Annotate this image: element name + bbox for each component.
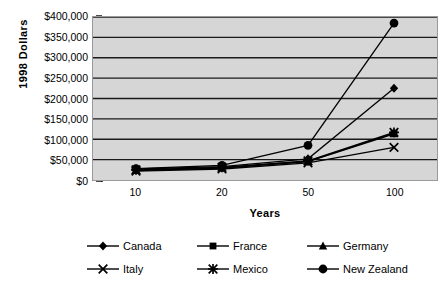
series-line [136, 132, 394, 169]
legend-label: Canada [123, 240, 162, 252]
data-point-circle [132, 164, 141, 173]
legend-label: Italy [123, 263, 143, 275]
y-tick-label: $100,000 [44, 135, 88, 145]
data-point-square [210, 242, 217, 249]
legend-item-new-zealand[interactable]: New Zealand [306, 262, 416, 276]
legend-item-italy[interactable]: Italy [86, 262, 196, 276]
plot-svg [93, 17, 437, 180]
legend-marker-circle-icon [306, 262, 340, 276]
legend-marker-star-icon [196, 262, 230, 276]
x-tick-label: 10 [129, 186, 141, 198]
x-axis-title: Years [92, 207, 438, 219]
legend-label: Germany [343, 240, 388, 252]
legend-item-canada[interactable]: Canada [86, 239, 196, 253]
series-line [136, 88, 394, 169]
data-point-diamond [99, 241, 107, 250]
y-tick-label: $0 [76, 176, 88, 186]
y-tick-label: $50,000 [50, 155, 88, 165]
y-tick-label: $350,000 [44, 32, 88, 42]
legend-marker-x-icon [86, 262, 120, 276]
chart-legend: CanadaFranceGermanyItalyMexicoNew Zealan… [86, 234, 416, 280]
x-tick-label: 50 [302, 186, 314, 198]
y-axis-tick-labels: $0$50,000$100,000$150,000$200,000$250,00… [24, 0, 88, 286]
legend-marker-square-icon [196, 239, 230, 253]
data-point-star [389, 127, 399, 137]
y-tick-label: $400,000 [44, 11, 88, 21]
plot-area [92, 16, 438, 181]
x-tick-label: 100 [386, 186, 404, 198]
y-tick-label: $250,000 [44, 73, 88, 83]
data-point-circle [319, 264, 328, 273]
series-new-zealand [132, 19, 399, 173]
legend-label: France [233, 240, 267, 252]
y-tick-label: $150,000 [44, 114, 88, 124]
legend-label: New Zealand [343, 263, 408, 275]
legend-item-germany[interactable]: Germany [306, 239, 416, 253]
legend-item-france[interactable]: France [196, 239, 306, 253]
legend-item-mexico[interactable]: Mexico [196, 262, 306, 276]
data-point-circle [218, 161, 227, 170]
chart-container: 1998 Dollars $0$50,000$100,000$150,000$2… [0, 0, 448, 286]
legend-marker-triangle-icon [306, 239, 340, 253]
x-axis-tick-labels: 102050100 [92, 186, 438, 202]
legend-label: Mexico [233, 263, 268, 275]
data-point-star [303, 156, 313, 166]
legend-marker-diamond-icon [86, 239, 120, 253]
data-point-star [208, 264, 218, 274]
y-tick-label: $200,000 [44, 94, 88, 104]
y-tick-label: $300,000 [44, 52, 88, 62]
x-tick-label: 20 [216, 186, 228, 198]
data-point-circle [390, 19, 399, 28]
data-point-circle [304, 141, 313, 150]
